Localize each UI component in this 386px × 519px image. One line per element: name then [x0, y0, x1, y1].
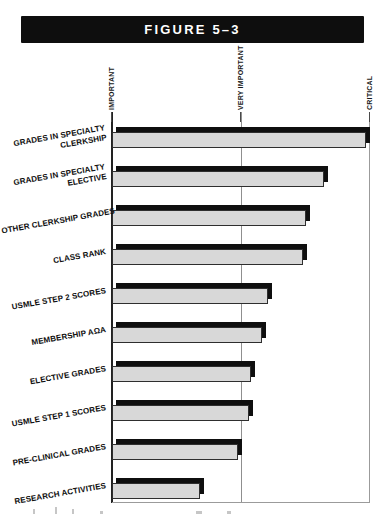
category-label-line: ELECTIVE GRADES — [1, 364, 107, 392]
axis-tick — [369, 112, 370, 122]
category-label-line: PRE-CLINICAL GRADES — [1, 442, 107, 470]
bar-fill — [112, 132, 366, 148]
category-label: USMLE STEP 1 SCORES — [1, 403, 107, 431]
category-label: ELECTIVE GRADES — [1, 364, 107, 392]
category-label-line: OTHER CLERKSHIP GRADES — [1, 208, 107, 236]
category-label-line: USMLE STEP 1 SCORES — [1, 403, 107, 431]
category-label: OTHER CLERKSHIP GRADES — [1, 208, 107, 236]
category-label: PRE-CLINICAL GRADES — [1, 442, 107, 470]
axis-tick — [240, 112, 241, 122]
bar-row — [112, 439, 242, 460]
bar-row — [112, 127, 370, 148]
category-label: RESEARCH ACTIVITIES — [1, 481, 107, 509]
bar-fill — [112, 327, 262, 343]
bar-fill — [112, 444, 238, 460]
bar-fill — [112, 210, 306, 226]
bar-row — [112, 166, 328, 187]
bar-fill — [112, 483, 200, 499]
bar-fill — [112, 366, 251, 382]
category-label-line: CLASS RANK — [1, 247, 107, 275]
category-label-line: MEMBERSHIP AΩA — [1, 325, 107, 353]
axis-tick — [111, 112, 112, 122]
bar-row — [112, 205, 310, 226]
gridline-critical — [369, 112, 370, 503]
bar-fill — [112, 288, 268, 304]
category-label: GRADES IN SPECIALTYELECTIVE — [0, 162, 108, 200]
category-label: CLASS RANK — [1, 247, 107, 275]
figure-page: FIGURE 5–3 IMPORTANTVERY IMPORTANTCRITIC… — [0, 0, 386, 519]
bar-fill — [112, 249, 303, 265]
bar-row — [112, 400, 253, 421]
bar-row — [112, 478, 204, 499]
axis-label-critical: CRITICAL — [366, 50, 377, 110]
bar-row — [112, 283, 272, 304]
axis-label-important: IMPORTANT — [108, 50, 119, 110]
bar-fill — [112, 171, 324, 187]
category-label-line: USMLE STEP 2 SCORES — [1, 286, 107, 314]
bar-row — [112, 361, 255, 382]
figure-title: FIGURE 5–3 — [144, 22, 240, 37]
category-label-line: RESEARCH ACTIVITIES — [1, 481, 107, 509]
category-label: GRADES IN SPECIALTYCLERKSHIP — [0, 123, 108, 161]
bar-fill — [112, 405, 249, 421]
x-axis-bottom-line — [112, 502, 370, 503]
category-label: MEMBERSHIP AΩA — [1, 325, 107, 353]
bar-row — [112, 322, 266, 343]
bar-row — [112, 244, 307, 265]
category-label: USMLE STEP 2 SCORES — [1, 286, 107, 314]
figure-title-bar: FIGURE 5–3 — [21, 16, 364, 43]
axis-label-very-important: VERY IMPORTANT — [237, 50, 248, 110]
